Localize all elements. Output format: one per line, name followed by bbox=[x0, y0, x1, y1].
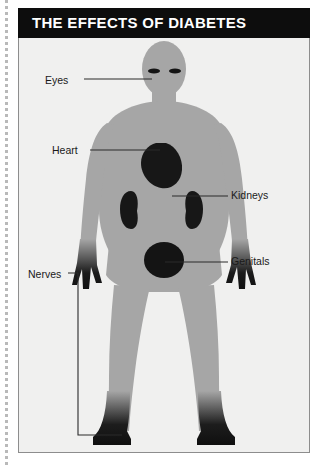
foot-left-shape bbox=[93, 391, 131, 445]
callout-label-kidneys: Kidneys bbox=[231, 189, 268, 201]
callout-label-heart: Heart bbox=[52, 144, 78, 156]
page-title: THE EFFECTS OF DIABETES bbox=[32, 14, 246, 31]
genital-region bbox=[144, 242, 184, 278]
body-silhouette bbox=[80, 41, 248, 431]
foot-right-shape bbox=[197, 391, 235, 445]
head-shape bbox=[142, 41, 186, 97]
callout-label-eyes: Eyes bbox=[45, 74, 68, 86]
title-bar: THE EFFECTS OF DIABETES bbox=[18, 8, 310, 38]
human-body-figure bbox=[19, 39, 309, 452]
eye-right-mark bbox=[169, 68, 181, 73]
eye-left-mark bbox=[148, 68, 160, 73]
body-figure-canvas bbox=[19, 39, 309, 452]
callout-label-genitals: Genitals bbox=[231, 255, 270, 267]
page-perforation-line bbox=[5, 0, 8, 467]
hand-left-shape bbox=[72, 239, 102, 289]
callout-label-nerves: Nerves bbox=[28, 268, 61, 280]
